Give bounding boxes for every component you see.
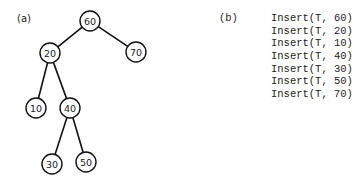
panel-b-label: (b) (219, 12, 238, 25)
svg-text:10: 10 (30, 103, 42, 114)
tree-nodes: 60207010403050 (26, 11, 146, 174)
tree-node-60: 60 (80, 11, 100, 31)
insert-operation: Insert(T, 60) (271, 12, 353, 25)
tree-edge (55, 118, 67, 155)
panel-a-label: (a) (17, 13, 31, 24)
insert-operation: Insert(T, 20) (271, 25, 353, 38)
svg-text:40: 40 (64, 103, 76, 114)
tree-node-30: 30 (42, 154, 62, 174)
tree-edge (38, 63, 47, 99)
svg-text:50: 50 (80, 157, 92, 168)
insert-operations-list: Insert(T, 60)Insert(T, 20)Insert(T, 10)I… (271, 12, 353, 101)
tree-node-10: 10 (26, 98, 46, 118)
insert-operation: Insert(T, 40) (271, 50, 353, 63)
insert-operation: Insert(T, 70) (271, 88, 353, 101)
tree-node-20: 20 (40, 43, 60, 63)
svg-text:20: 20 (44, 48, 56, 59)
svg-text:30: 30 (46, 159, 58, 170)
tree-edge (58, 27, 82, 47)
tree-node-40: 40 (60, 98, 80, 118)
insert-operation: Insert(T, 30) (271, 63, 353, 76)
tree-edge (73, 118, 83, 153)
tree-node-70: 70 (126, 42, 146, 62)
insert-operation: Insert(T, 50) (271, 75, 353, 88)
insert-operation: Insert(T, 10) (271, 37, 353, 50)
tree-edge (53, 62, 66, 98)
tree-node-50: 50 (76, 152, 96, 172)
svg-text:70: 70 (130, 47, 142, 58)
svg-text:60: 60 (84, 16, 96, 27)
tree-edge (98, 27, 127, 47)
